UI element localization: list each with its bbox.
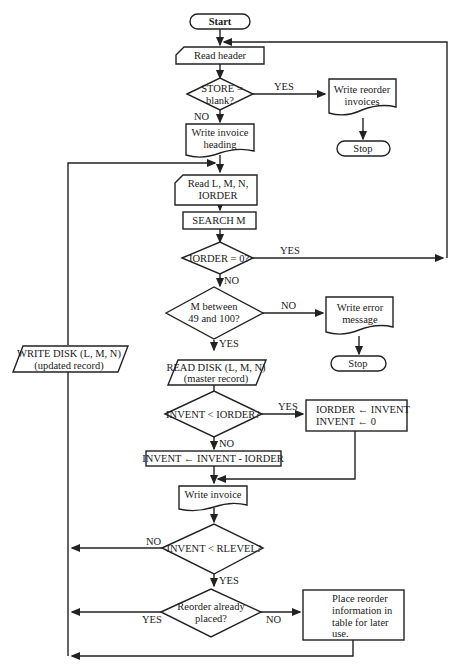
invent-lt-rlevel-label: INVENT < RLEVEL? — [167, 543, 262, 554]
read-lmn-line2: IORDER — [198, 190, 237, 201]
terminal-stop-1: Stop — [337, 141, 390, 156]
reorder-placed-line1: Reorder already — [177, 601, 245, 612]
place-reorder-line4: use. — [332, 628, 349, 639]
terminal-stop-2: Stop — [331, 356, 386, 371]
read-header-label: Read header — [194, 50, 247, 61]
m-yes-label: YES — [219, 338, 239, 349]
write-invoice-label: Write invoice — [184, 489, 241, 500]
decision-invent-lt-rlevel: INVENT < RLEVEL? — [162, 524, 263, 574]
write-disk-line2: (updated record) — [34, 360, 104, 372]
process-place-reorder: Place reorder information in table for l… — [303, 590, 404, 640]
rlevel-no-label: NO — [146, 536, 162, 547]
m-between-line2: 49 and 100? — [188, 313, 240, 324]
document-write-error: Write error message — [326, 297, 393, 334]
reorder-placed-line2: placed? — [195, 613, 227, 624]
store-yes-label: YES — [274, 81, 294, 92]
assign-line1: IORDER ← INVENT — [316, 404, 410, 415]
input-read-header: Read header — [176, 47, 264, 64]
terminal-start: Start — [190, 14, 250, 29]
document-write-heading: Write invoice heading — [186, 124, 254, 157]
document-write-reorder: Write reorder invoices — [329, 79, 396, 115]
write-reorder-line2: invoices — [345, 96, 380, 107]
store-no-label: NO — [194, 111, 210, 122]
place-reorder-line3: table for later — [332, 617, 389, 628]
iorder-yes-label: YES — [280, 245, 300, 256]
write-reorder-line1: Write reorder — [334, 84, 391, 95]
write-heading-line2: heading — [203, 139, 237, 150]
m-between-line1: M between — [191, 301, 239, 312]
subtract-label: INVENT ← INVENT - IORDER — [142, 453, 283, 464]
assign-line2: INVENT ← 0 — [316, 416, 376, 427]
io-read-disk: READ DISK (L, M, N) (master record) — [166, 360, 266, 385]
inventory-flowchart: Start Read header STORE = blank? YES NO … — [0, 0, 455, 671]
stop2-label: Stop — [348, 358, 367, 369]
placed-yes-label: YES — [142, 614, 162, 625]
place-reorder-line1: Place reorder — [332, 593, 388, 604]
invent-yes-label: YES — [278, 401, 298, 412]
decision-store-blank: STORE = blank? — [187, 78, 253, 110]
write-error-line1: Write error — [337, 302, 384, 313]
placed-no-label: NO — [266, 614, 282, 625]
iorder-no-label: NO — [224, 275, 240, 286]
store-blank-line1: STORE = — [201, 83, 243, 94]
search-m-label: SEARCH M — [192, 215, 246, 226]
iorder-zero-label: IORDER = 0? — [189, 253, 250, 264]
connectors — [68, 29, 447, 656]
m-no-label: NO — [281, 300, 297, 311]
stop1-label: Stop — [353, 143, 372, 154]
io-write-disk: WRITE DISK (L, M, N) (updated record) — [13, 346, 128, 372]
decision-m-between: M between 49 and 100? — [166, 287, 263, 339]
place-reorder-line2: information in — [332, 605, 393, 616]
write-error-line2: message — [342, 314, 378, 325]
rlevel-yes-label: YES — [219, 575, 239, 586]
write-heading-line1: Write invoice — [191, 127, 248, 138]
process-assign: IORDER ← INVENT INVENT ← 0 — [306, 400, 410, 431]
input-read-lmn: Read L, M, N, IORDER — [175, 175, 257, 205]
write-disk-line1: WRITE DISK (L, M, N) — [17, 348, 121, 360]
read-disk-line2: (master record) — [184, 373, 249, 385]
process-search-m: SEARCH M — [183, 212, 256, 229]
decision-iorder-zero: IORDER = 0? — [182, 242, 253, 274]
decision-reorder-placed: Reorder already placed? — [161, 589, 261, 637]
process-subtract: INVENT ← INVENT - IORDER — [142, 451, 283, 466]
decision-invent-lt-iorder: INVENT < IORDER? — [165, 391, 262, 437]
document-write-invoice: Write invoice — [179, 486, 247, 511]
invent-no-label: NO — [219, 438, 235, 449]
start-label: Start — [209, 16, 232, 27]
invent-lt-iorder-label: INVENT < IORDER? — [166, 409, 260, 420]
store-blank-line2: blank? — [206, 95, 234, 106]
read-lmn-line1: Read L, M, N, — [188, 178, 249, 189]
